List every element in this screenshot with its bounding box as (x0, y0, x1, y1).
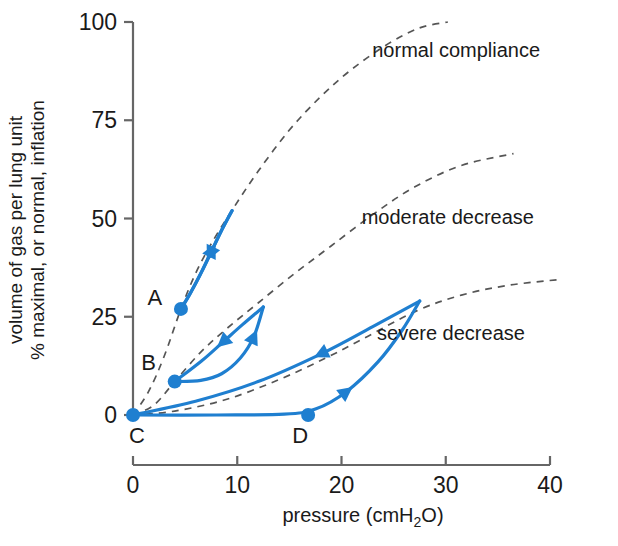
marker-point-C (126, 408, 140, 422)
x-tick-label: 40 (537, 472, 563, 498)
marker-point-A (174, 302, 188, 316)
annotation-normal: normal compliance (372, 39, 540, 61)
y-tick-label: 50 (91, 206, 117, 232)
x-axis-title: pressure (cmH2O) (282, 504, 443, 530)
pv-loop-deflation (133, 301, 420, 415)
x-tick-label: 0 (127, 472, 140, 498)
pv-loop-inflation (133, 301, 420, 415)
loop-direction-arrows (202, 243, 352, 402)
x-tick-label: 10 (224, 472, 250, 498)
pressure-volume-chart: ABCD 0255075100010203040 normal complian… (0, 0, 618, 546)
y-tick-label: 75 (91, 107, 117, 133)
point-label-A: A (148, 285, 163, 310)
marker-point-D (301, 408, 315, 422)
point-label-B: B (141, 350, 156, 375)
pv-loop-deflation (181, 211, 232, 309)
point-markers: ABCD (126, 285, 315, 448)
y-tick-label: 100 (79, 9, 117, 35)
marker-point-B (168, 375, 182, 389)
annotation-moderate: moderate decrease (362, 206, 534, 228)
point-label-C: C (129, 423, 145, 448)
x-tick-label: 20 (329, 472, 355, 498)
y-tick-label: 0 (104, 402, 117, 428)
annotation-severe: severe decrease (377, 322, 525, 344)
y-tick-label: 25 (91, 304, 117, 330)
chart-figure: ABCD 0255075100010203040 normal complian… (0, 0, 618, 546)
point-label-D: D (292, 423, 308, 448)
x-tick-label: 30 (433, 472, 459, 498)
y-axis-title-line1: volume of gas per lung unit (5, 115, 26, 344)
y-axis-title-line2: % maximal, or normal, inflation (27, 100, 48, 360)
arrowhead-inflation (336, 387, 352, 402)
